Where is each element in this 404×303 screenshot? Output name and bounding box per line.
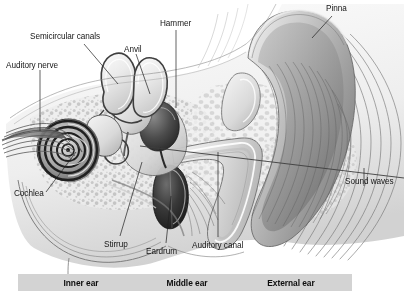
region-segment-external-ear: External ear (230, 274, 352, 291)
label-auditory-canal: Auditory canal (192, 242, 243, 250)
region-band: Inner ear Middle ear External ear (18, 274, 352, 291)
label-pinna: Pinna (326, 5, 347, 13)
label-stirrup: Stirrup (104, 241, 128, 249)
region-segment-middle-ear: Middle ear (144, 274, 230, 291)
ear-anatomy-figure: Semicircular canals Auditory nerve Anvil… (0, 0, 404, 303)
anatomy-illustration (0, 0, 404, 303)
region-segment-inner-ear: Inner ear (18, 274, 144, 291)
label-sound-waves: Sound waves (345, 178, 394, 186)
label-cochlea: Cochlea (14, 190, 44, 198)
label-hammer: Hammer (160, 20, 191, 28)
label-anvil: Anvil (124, 46, 142, 54)
label-eardrum: Eardrum (146, 248, 177, 256)
label-semicircular-canals: Semicircular canals (30, 33, 100, 41)
label-auditory-nerve: Auditory nerve (6, 62, 58, 70)
